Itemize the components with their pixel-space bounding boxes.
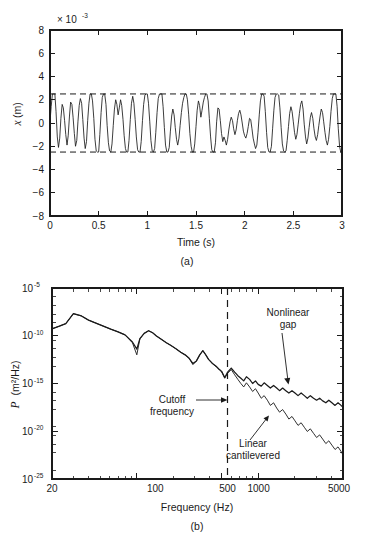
panel-b-content: 10 -5 10 -10 10 -15 10 -20 10 -25	[9, 281, 351, 532]
panel-b-linear-label-line1: Linear	[239, 438, 267, 449]
panel-a-signal-trace	[50, 94, 342, 152]
panel-b-yaxis-unit: (m²/Hz)	[9, 361, 21, 396]
panel-a-ytick-4: 0	[38, 118, 44, 129]
panel-b-ytick-3-base: 10	[22, 426, 34, 437]
panel-b-xtick-4: 5000	[328, 483, 351, 494]
panel-a-ytick-5: −2	[33, 141, 45, 152]
panel-b-canvas: 10 -5 10 -10 10 -15 10 -20 10 -25	[0, 271, 374, 543]
panel-a-xtick-4: 2	[242, 220, 248, 231]
panel-a-xaxis-label: Time (s)	[177, 236, 215, 248]
figure-container: 8 6 4 2 0 −2 −4 −6 −8 × 10 -3	[0, 0, 374, 543]
panel-b-xtick-0: 20	[46, 483, 58, 494]
panel-b-nonlinear-label-line2: gap	[280, 319, 297, 330]
panel-a-multiplier-exp: -3	[82, 12, 88, 19]
panel-a-ytick-2: 4	[38, 71, 44, 82]
panel-a-xtick-5: 2.5	[286, 220, 300, 231]
panel-a-ytick-8: −8	[33, 211, 45, 222]
panel-b-ytick-0-base: 10	[22, 283, 34, 294]
panel-a-multiplier-base: × 10	[57, 14, 77, 25]
panel-b-layer: 10 -5 10 -10 10 -15 10 -20 10 -25	[0, 271, 374, 543]
panel-a-ytick-1: 6	[38, 48, 44, 59]
panel-b-linear-leader	[250, 418, 267, 440]
panel-a-caption: (a)	[181, 255, 194, 267]
panel-a-yaxis-unit: (m)	[11, 102, 23, 118]
panel-b-linear-cantilevered-curve	[52, 314, 343, 455]
panel-b-cutoff-label-line1: Cutoff	[159, 394, 186, 405]
panel-b-ytick-2: 10 -15	[22, 377, 44, 390]
panel-b-ytick-3: 10 -20	[22, 424, 44, 437]
panel-a-yaxis-label: x (m)	[11, 102, 23, 126]
panel-b-ytick-2-exp: -15	[34, 377, 44, 384]
panel-a-xtick-0: 0	[47, 220, 53, 231]
panel-a-ytick-6: −4	[33, 164, 45, 175]
panel-a-axis-multiplier: × 10 -3	[57, 12, 88, 25]
panel-b-ytick-4-base: 10	[22, 474, 34, 485]
panel-b-xtick-1: 100	[147, 483, 164, 494]
panel-a-ytick-7: −6	[33, 187, 45, 198]
panel-b-xtick-2: 500	[219, 483, 236, 494]
panel-a-ytick-3: 2	[38, 94, 44, 105]
panel-b-ytick-0: 10 -5	[22, 281, 40, 294]
panel-a-ytick-0: 8	[38, 25, 44, 36]
panel-b-nonlinear-annotation: Nonlinear gap	[267, 307, 310, 385]
panel-b-linear-leader-head	[264, 416, 270, 422]
panel-b-ytick-4-exp: -25	[34, 472, 44, 479]
panel-a-xtick-6: 3	[339, 220, 345, 231]
panel-a-xtick-3: 1.5	[189, 220, 203, 231]
panel-b-yaxis-label: P (m²/Hz)	[9, 361, 21, 410]
panel-b-yaxis-symbol: P	[9, 401, 21, 409]
panel-b-ytick-1: 10 -10	[22, 329, 44, 342]
panel-b-ytick-2-base: 10	[22, 378, 34, 389]
panel-a-svg: 8 6 4 2 0 −2 −4 −6 −8 × 10 -3	[0, 0, 374, 271]
panel-a-yaxis-symbol: x	[11, 120, 23, 127]
panel-b-cutoff-label-line2: frequency	[150, 406, 194, 417]
panel-b-ytick-4: 10 -25	[22, 472, 44, 485]
panel-b-cutoff-annotation: Cutoff frequency	[150, 394, 227, 417]
panel-b-nonlinear-leader-head	[284, 378, 290, 385]
panel-b-linear-annotation: Linear cantilevered	[226, 416, 280, 462]
panel-b-nonlinear-leader	[282, 333, 288, 381]
panel-b-linear-label-line2: cantilevered	[226, 450, 280, 461]
panel-b-ytick-1-exp: -10	[34, 329, 44, 336]
panel-b-ytick-1-base: 10	[22, 330, 34, 341]
panel-b-caption: (b)	[191, 520, 204, 532]
panel-b-xaxis-label: Frequency (Hz)	[161, 501, 233, 513]
panel-b-nonlinear-label-line1: Nonlinear	[267, 307, 310, 318]
panel-b-cutoff-arrow-head	[221, 397, 228, 403]
panel-b-xtick-3: 1000	[247, 483, 270, 494]
panel-a-xtick-2: 1	[145, 220, 151, 231]
panel-b-ytick-0-exp: -5	[34, 281, 40, 288]
panel-b-ytick-3-exp: -20	[34, 424, 44, 431]
panel-b-nonlinear-gap-curve	[52, 314, 343, 407]
panel-a-xtick-1: 0.5	[92, 220, 106, 231]
panel-a-timeseries: 8 6 4 2 0 −2 −4 −6 −8 × 10 -3	[0, 0, 374, 271]
